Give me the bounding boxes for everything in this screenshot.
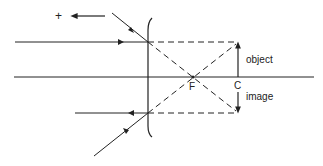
top-reflected-ray (112, 13, 148, 42)
focus-point (192, 76, 195, 79)
dashed-diagonal-up (148, 44, 236, 113)
centre-label: C (234, 80, 241, 91)
ray-diagram: + F object C image (0, 0, 323, 166)
image-label: image (246, 91, 274, 102)
top-incident-arrow-icon (118, 39, 124, 45)
bottom-reflected-arrow-icon (128, 110, 134, 116)
bottom-incident-ray (94, 113, 148, 156)
focus-label: F (189, 81, 195, 92)
sign-label: + (55, 9, 62, 23)
object-label: object (246, 54, 273, 65)
